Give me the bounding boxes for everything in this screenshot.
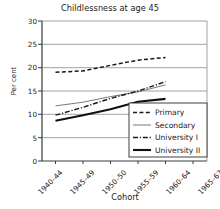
legend-label: Primary	[155, 108, 185, 117]
legend-label: University II	[155, 146, 200, 155]
series-line-primary	[56, 57, 166, 72]
legend-label: University I	[155, 133, 198, 142]
plot-area: Primary Secondary University I Universit…	[0, 0, 220, 209]
legend-label: Secondary	[155, 121, 196, 130]
chart-figure: Childlessness at age 45 Per cent Cohort …	[0, 0, 220, 209]
legend-box: Primary Secondary University I Universit…	[129, 103, 207, 157]
